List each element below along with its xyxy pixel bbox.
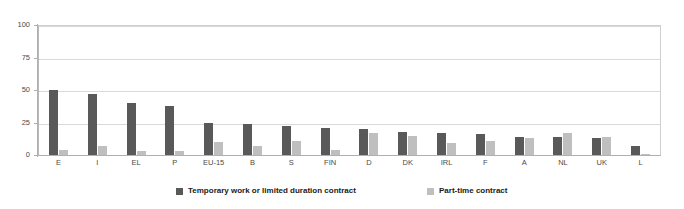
legend-label-parttime: Part-time contract xyxy=(439,186,507,196)
bar-parttime xyxy=(253,146,262,155)
bar-temporary xyxy=(321,128,330,155)
bar-parttime xyxy=(137,151,146,155)
x-axis-tick-label: L xyxy=(616,158,666,167)
y-axis: 0255075100 xyxy=(0,0,34,209)
bar-temporary xyxy=(49,90,58,155)
y-axis-tick-label: 50 xyxy=(0,86,30,94)
bar-parttime xyxy=(447,143,456,155)
bar-parttime xyxy=(641,154,650,155)
bar-temporary xyxy=(631,146,640,155)
bar-parttime xyxy=(563,133,572,155)
bar-parttime xyxy=(292,141,301,155)
bar-temporary xyxy=(359,129,368,155)
bar-temporary xyxy=(204,123,213,156)
bar-parttime xyxy=(602,137,611,155)
legend-label-temporary: Temporary work or limited duration contr… xyxy=(188,186,356,196)
bar-parttime xyxy=(408,136,417,156)
bar-parttime xyxy=(175,151,184,155)
x-axis-line xyxy=(38,155,661,156)
bar-parttime xyxy=(214,142,223,155)
bar-parttime xyxy=(369,133,378,155)
bar-parttime xyxy=(486,141,495,155)
bar-temporary xyxy=(88,94,97,155)
bar-temporary xyxy=(282,126,291,155)
y-axis-tick-label: 100 xyxy=(0,21,30,29)
legend-swatch-parttime-icon xyxy=(427,188,434,195)
bar-temporary xyxy=(553,137,562,155)
y-axis-tick-label: 0 xyxy=(0,151,30,159)
legend-item-temporary: Temporary work or limited duration contr… xyxy=(176,186,356,196)
bars-layer xyxy=(39,25,660,155)
bar-chart: 0255075100 Temporary work or limited dur… xyxy=(0,0,684,209)
bar-temporary xyxy=(476,134,485,155)
bar-temporary xyxy=(127,103,136,155)
bar-parttime xyxy=(59,150,68,155)
bar-parttime xyxy=(98,146,107,155)
y-axis-line xyxy=(37,24,38,157)
y-axis-tick-label: 25 xyxy=(0,119,30,127)
bar-parttime xyxy=(525,138,534,155)
bar-temporary xyxy=(437,133,446,155)
y-axis-tick-label: 75 xyxy=(0,54,30,62)
legend-item-parttime: Part-time contract xyxy=(427,186,507,196)
bar-temporary xyxy=(243,124,252,155)
bar-temporary xyxy=(398,132,407,155)
chart-legend: Temporary work or limited duration contr… xyxy=(0,186,684,200)
bar-temporary xyxy=(592,138,601,155)
legend-swatch-temporary-icon xyxy=(176,188,183,195)
bar-parttime xyxy=(331,150,340,155)
bar-temporary xyxy=(515,137,524,155)
bar-temporary xyxy=(165,106,174,155)
